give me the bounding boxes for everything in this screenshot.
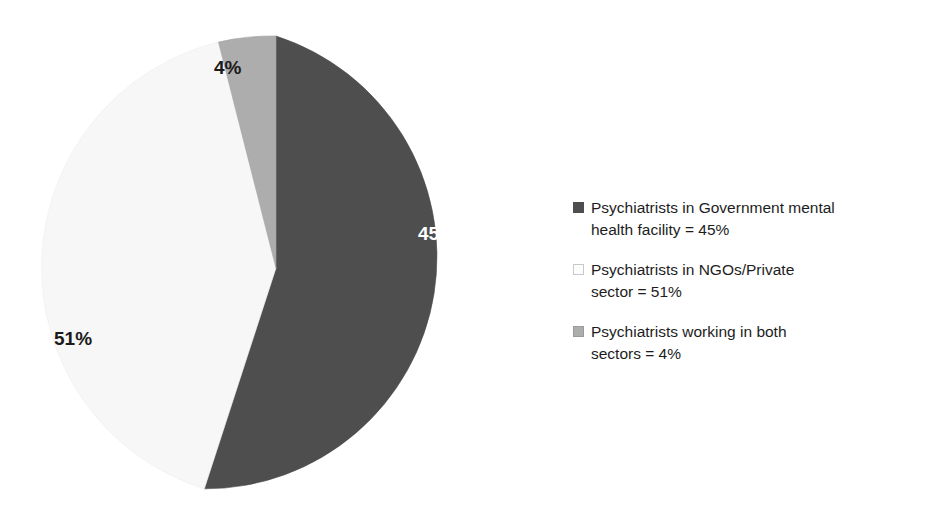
pie-chart-figure: 45% 51% 4% Psychiatrists in Government m… (0, 0, 941, 523)
legend-item-government[interactable]: Psychiatrists in Government mentalhealth… (573, 197, 923, 242)
legend-label-government-line1: Psychiatrists in Government mental (591, 199, 835, 216)
pie-slice-label-both-sectors: 4% (214, 58, 241, 77)
pie-slice-label-ngo-private: 51% (54, 329, 92, 348)
legend-label-both-sectors-line1: Psychiatrists working in both (591, 323, 787, 340)
pie-slice-label-government: 45% (418, 224, 456, 243)
pie-chart-svg (0, 0, 540, 523)
legend-item-both-sectors[interactable]: Psychiatrists working in bothsectors = 4… (573, 321, 923, 366)
legend-label-ngo-private-line1: Psychiatrists in NGOs/Private (591, 261, 794, 278)
legend-label-ngo-private: Psychiatrists in NGOs/Privatesector = 51… (591, 259, 794, 304)
legend-label-both-sectors: Psychiatrists working in bothsectors = 4… (591, 321, 787, 366)
pie-chart-plot-area: 45% 51% 4% (0, 0, 540, 523)
legend-label-government-line2: health facility = 45% (591, 221, 729, 238)
legend-swatch-white-square-icon (573, 264, 584, 275)
chart-legend: Psychiatrists in Government mentalhealth… (573, 197, 923, 366)
legend-swatch-gray-square-icon (573, 326, 584, 337)
legend-label-both-sectors-line2: sectors = 4% (591, 345, 681, 362)
legend-label-government: Psychiatrists in Government mentalhealth… (591, 197, 835, 242)
legend-label-ngo-private-line2: sector = 51% (591, 283, 682, 300)
legend-item-ngo-private[interactable]: Psychiatrists in NGOs/Privatesector = 51… (573, 259, 923, 304)
legend-swatch-dark-square-icon (573, 202, 584, 213)
